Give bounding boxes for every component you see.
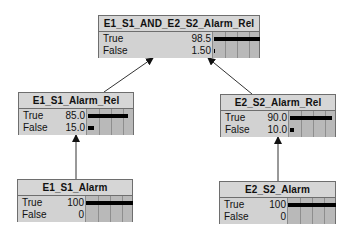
state-row-true: True 100 <box>224 199 286 211</box>
belief-bar-false <box>214 49 215 53</box>
state-value: 100 <box>269 199 286 211</box>
state-label: True <box>225 112 245 124</box>
belief-bar-false <box>290 128 294 132</box>
state-value: 0 <box>78 209 84 221</box>
state-row-true: True 100 <box>22 197 84 209</box>
state-label: False <box>23 122 47 134</box>
node-e2-s2-alarm-rel[interactable]: E2_S2_Alarm_Rel True 90.0 False 10.0 <box>220 94 336 137</box>
state-label: True <box>224 199 244 211</box>
state-value: 98.5 <box>192 33 211 45</box>
node-e1-s1-and-e2-s2-alarm-rel[interactable]: E1_S1_AND_E2_S2_Alarm_Rel True 98.5 Fals… <box>98 15 260 58</box>
state-label: False <box>22 209 46 221</box>
state-row-true: True 90.0 <box>225 112 287 124</box>
node-e2-s2-alarm[interactable]: E2_S2_Alarm True 100 False 0 <box>219 181 336 224</box>
belief-bar-grid <box>85 196 132 222</box>
belief-bar-grid <box>288 111 335 137</box>
state-value: 1.50 <box>192 45 211 57</box>
state-label: True <box>23 110 43 122</box>
belief-bar-true <box>88 114 128 118</box>
state-value: 10.0 <box>268 124 287 136</box>
state-row-false: False 10.0 <box>225 124 287 136</box>
belief-bar-grid <box>86 109 133 135</box>
state-value: 90.0 <box>268 112 287 124</box>
edge-right-mid-to-top <box>208 58 252 94</box>
state-value: 85.0 <box>66 110 85 122</box>
state-row-false: False 1.50 <box>103 45 211 57</box>
belief-bar-true <box>290 116 332 120</box>
belief-bar-grid <box>212 32 259 58</box>
node-title: E2_S2_Alarm <box>220 182 335 198</box>
state-label: False <box>224 211 248 223</box>
state-label: True <box>22 197 42 209</box>
belief-bar-true <box>86 201 133 205</box>
edge-left-mid-to-top <box>104 58 153 92</box>
state-row-false: False 0 <box>224 211 286 223</box>
node-title: E2_S2_Alarm_Rel <box>221 95 335 111</box>
state-row-true: True 98.5 <box>103 33 211 45</box>
belief-bar-false <box>88 126 94 130</box>
node-e1-s1-alarm[interactable]: E1_S1_Alarm True 100 False 0 <box>17 179 133 222</box>
state-row-false: False 15.0 <box>23 122 85 134</box>
state-row-true: True 85.0 <box>23 110 85 122</box>
state-row-false: False 0 <box>22 209 84 221</box>
node-title: E1_S1_AND_E2_S2_Alarm_Rel <box>99 16 259 32</box>
belief-bar-grid <box>287 198 335 224</box>
node-e1-s1-alarm-rel[interactable]: E1_S1_Alarm_Rel True 85.0 False 15.0 <box>18 92 134 135</box>
state-label: False <box>103 45 127 57</box>
state-label: False <box>225 124 249 136</box>
node-title: E1_S1_Alarm_Rel <box>19 93 133 109</box>
state-value: 0 <box>280 211 286 223</box>
belief-bar-true <box>214 37 260 41</box>
state-label: True <box>103 33 123 45</box>
state-value: 15.0 <box>66 122 85 134</box>
node-title: E1_S1_Alarm <box>18 180 132 196</box>
state-value: 100 <box>67 197 84 209</box>
belief-bar-true <box>288 203 336 207</box>
